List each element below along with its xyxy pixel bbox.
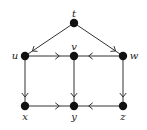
node-y <box>70 102 78 110</box>
edges-group <box>22 23 126 109</box>
node-label-y: y <box>70 111 77 122</box>
node-label-w: w <box>130 50 139 61</box>
graph-canvas: tuvwxyz <box>0 0 147 130</box>
node-w <box>119 52 127 60</box>
node-u <box>21 52 29 60</box>
node-t <box>70 19 78 27</box>
node-v <box>70 52 78 60</box>
node-label-u: u <box>12 50 18 61</box>
node-label-x: x <box>22 111 28 122</box>
node-z <box>119 102 127 110</box>
node-label-v: v <box>71 41 77 52</box>
node-label-z: z <box>119 111 126 122</box>
node-x <box>21 102 29 110</box>
node-label-t: t <box>72 8 77 19</box>
